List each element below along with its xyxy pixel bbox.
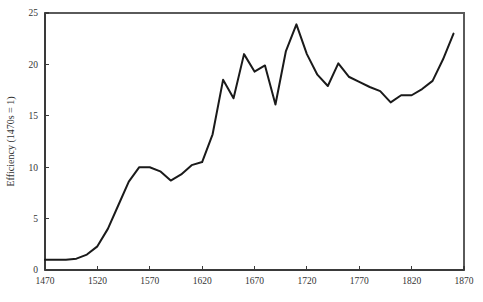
chart-figure: 147015201570162016701720177018201870 051… xyxy=(0,0,483,302)
axis-ticks xyxy=(45,13,464,270)
x-axis-tick-labels: 147015201570162016701720177018201870 xyxy=(36,276,474,286)
y-tick-label: 0 xyxy=(33,265,38,275)
y-tick-label: 25 xyxy=(29,8,39,18)
y-axis-tick-labels: 0510152025 xyxy=(29,8,39,275)
x-tick-label: 1570 xyxy=(140,276,159,286)
y-tick-label: 5 xyxy=(33,214,38,224)
data-series-group xyxy=(45,24,454,259)
x-tick-label: 1670 xyxy=(245,276,264,286)
x-tick-label: 1470 xyxy=(36,276,55,286)
data-line-efficiency xyxy=(45,24,454,259)
plot-frame xyxy=(45,13,464,270)
y-tick-label: 20 xyxy=(29,60,39,70)
y-tick-label: 15 xyxy=(29,111,39,121)
x-tick-label: 1820 xyxy=(402,276,421,286)
x-tick-label: 1870 xyxy=(455,276,474,286)
efficiency-line-chart: 147015201570162016701720177018201870 051… xyxy=(0,0,483,302)
y-axis-title: Efficiency (1470s = 1) xyxy=(5,96,17,186)
x-tick-label: 1520 xyxy=(88,276,107,286)
plot-border xyxy=(45,13,464,270)
x-tick-label: 1620 xyxy=(193,276,212,286)
x-tick-label: 1720 xyxy=(297,276,316,286)
y-tick-label: 10 xyxy=(29,163,39,173)
x-tick-label: 1770 xyxy=(350,276,369,286)
